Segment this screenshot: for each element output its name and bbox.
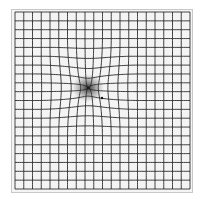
grid-lines (15, 12, 190, 189)
distortion-spot (72, 74, 104, 102)
small-dot (101, 97, 103, 99)
amsler-grid (0, 0, 201, 201)
